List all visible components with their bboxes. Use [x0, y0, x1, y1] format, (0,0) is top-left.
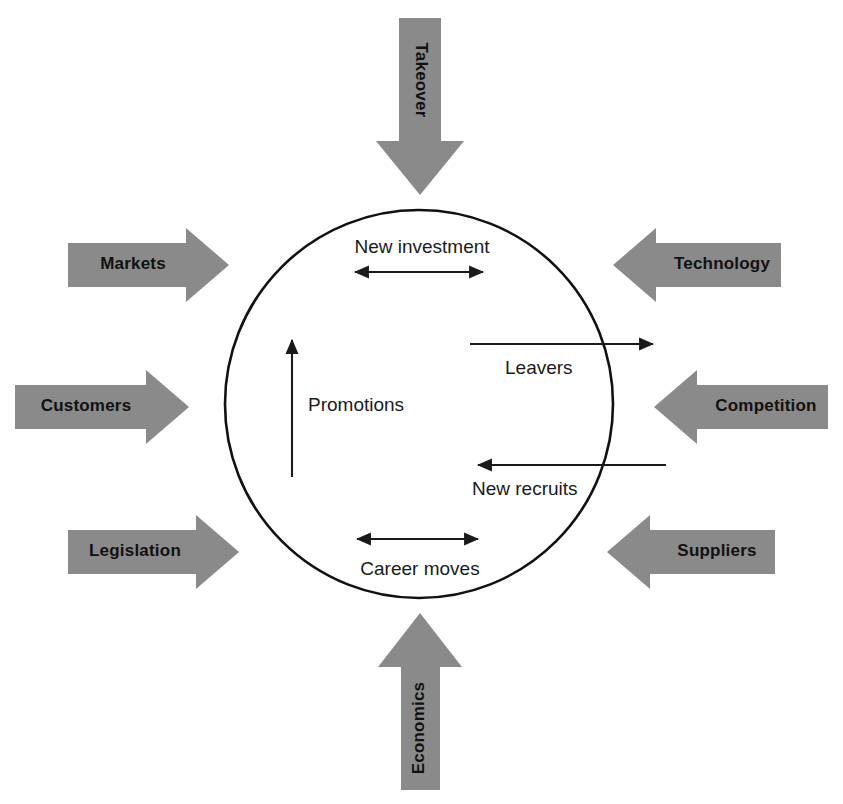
external-arrow-label-takeover: Takeover: [412, 43, 431, 118]
internal-flow-label-new-investment: New investment: [354, 236, 490, 257]
external-arrow-economics[interactable]: Economics: [378, 613, 462, 790]
external-arrow-label-legislation: Legislation: [89, 541, 181, 560]
external-arrow-customers[interactable]: Customers: [15, 370, 189, 444]
external-arrow-label-technology: Technology: [674, 254, 770, 273]
external-arrow-legislation[interactable]: Legislation: [68, 515, 239, 589]
external-arrow-technology[interactable]: Technology: [613, 228, 781, 302]
external-arrow-competition[interactable]: Competition: [654, 370, 828, 444]
internal-flow-label-leavers: Leavers: [505, 357, 573, 378]
external-arrow-markets[interactable]: Markets: [68, 228, 229, 302]
external-arrow-label-suppliers: Suppliers: [677, 541, 756, 560]
external-arrow-suppliers[interactable]: Suppliers: [607, 515, 775, 589]
external-arrow-takeover[interactable]: Takeover: [376, 18, 464, 195]
diagram-canvas: Takeover Markets Customers Legislation T…: [0, 0, 843, 804]
external-arrow-label-competition: Competition: [715, 396, 816, 415]
external-arrow-label-markets: Markets: [100, 254, 166, 273]
external-arrow-label-customers: Customers: [41, 396, 132, 415]
diagram-svg: Takeover Markets Customers Legislation T…: [0, 0, 843, 804]
internal-flow-label-new-recruits: New recruits: [472, 478, 578, 499]
internal-flow-label-career-moves: Career moves: [360, 558, 479, 579]
internal-flow-label-promotions: Promotions: [308, 394, 404, 415]
external-arrow-label-economics: Economics: [409, 682, 428, 775]
